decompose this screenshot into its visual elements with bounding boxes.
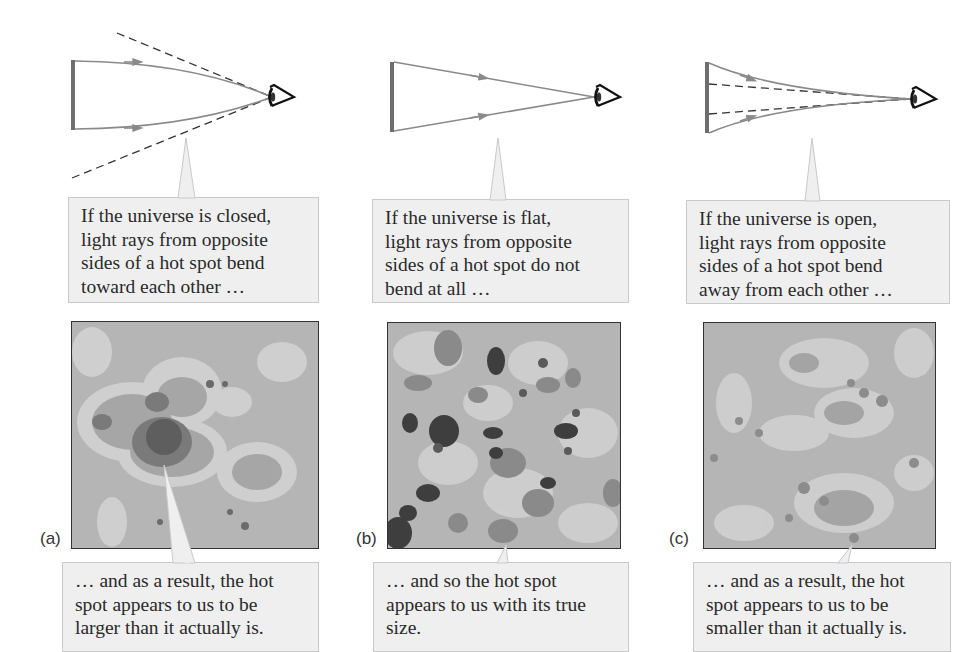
light-ray-upper xyxy=(394,62,594,97)
cmb-map-flat xyxy=(387,322,621,549)
cmb-map-flat-texture xyxy=(388,323,621,549)
light-ray-lower xyxy=(75,97,272,129)
callout-line: … and as a result, the hot xyxy=(75,569,308,593)
callout-line: light rays from opposite xyxy=(699,231,939,255)
ray-diagrams xyxy=(0,0,977,200)
hot-spot-source-bar xyxy=(71,60,75,130)
callout-line: sides of a hot spot bend xyxy=(81,251,308,275)
callout-line: If the universe is flat, xyxy=(385,206,618,230)
callout-closed-universe: If the universe is closed, light rays fr… xyxy=(68,197,319,303)
light-ray-lower xyxy=(394,97,594,131)
result-callout-flat: … and so the hot spot appears to us with… xyxy=(373,562,629,652)
callout-line: spot appears to us to be xyxy=(75,593,308,617)
callout-line: away from each other … xyxy=(699,278,939,302)
callout-line: If the universe is closed, xyxy=(81,204,308,228)
eye-icon xyxy=(596,85,621,106)
callout-flat-universe: If the universe is flat, light rays from… xyxy=(372,199,629,303)
callout-line: … and so the hot spot xyxy=(386,569,618,593)
hot-spot-source-bar xyxy=(390,62,394,132)
apparent-ray-dashed-lower xyxy=(72,97,272,178)
callout-line: sides of a hot spot do not xyxy=(385,253,618,277)
cmb-map-closed xyxy=(71,321,319,549)
callout-line: smaller than it actually is. xyxy=(706,616,940,640)
panel-label-c: (c) xyxy=(669,529,689,549)
callout-line: If the universe is open, xyxy=(699,207,939,231)
eye-icon xyxy=(912,87,937,108)
cmb-map-closed-texture xyxy=(72,322,319,549)
eye-icon xyxy=(270,85,295,106)
closed-universe-ray-diagram xyxy=(71,33,294,178)
callout-line: toward each other … xyxy=(81,275,308,299)
callout-open-universe: If the universe is open, light rays from… xyxy=(686,200,950,304)
light-ray-upper xyxy=(75,61,272,97)
flat-universe-ray-diagram xyxy=(390,62,620,132)
callout-line: sides of a hot spot bend xyxy=(699,254,939,278)
open-universe-ray-diagram xyxy=(705,62,936,133)
callout-line: spot appears to us to be xyxy=(706,593,940,617)
callout-line: larger than it actually is. xyxy=(75,616,308,640)
cmb-map-open-texture xyxy=(704,323,936,549)
panel-label-b: (b) xyxy=(356,529,377,549)
callout-line: … and as a result, the hot xyxy=(706,569,940,593)
callout-line: bend at all … xyxy=(385,277,618,301)
light-ray-lower xyxy=(709,99,910,133)
result-callout-closed: … and as a result, the hot spot appears … xyxy=(62,562,319,652)
light-ray-upper xyxy=(709,63,910,99)
callout-line: size. xyxy=(386,616,618,640)
panel-label-a: (a) xyxy=(40,529,61,549)
callout-line: appears to us with its true xyxy=(386,593,618,617)
hot-spot-source-bar xyxy=(705,62,709,133)
cmb-map-open xyxy=(703,322,936,549)
result-callout-open: … and as a result, the hot spot appears … xyxy=(693,562,951,652)
callout-line: light rays from opposite xyxy=(385,230,618,254)
callout-line: light rays from opposite xyxy=(81,228,308,252)
